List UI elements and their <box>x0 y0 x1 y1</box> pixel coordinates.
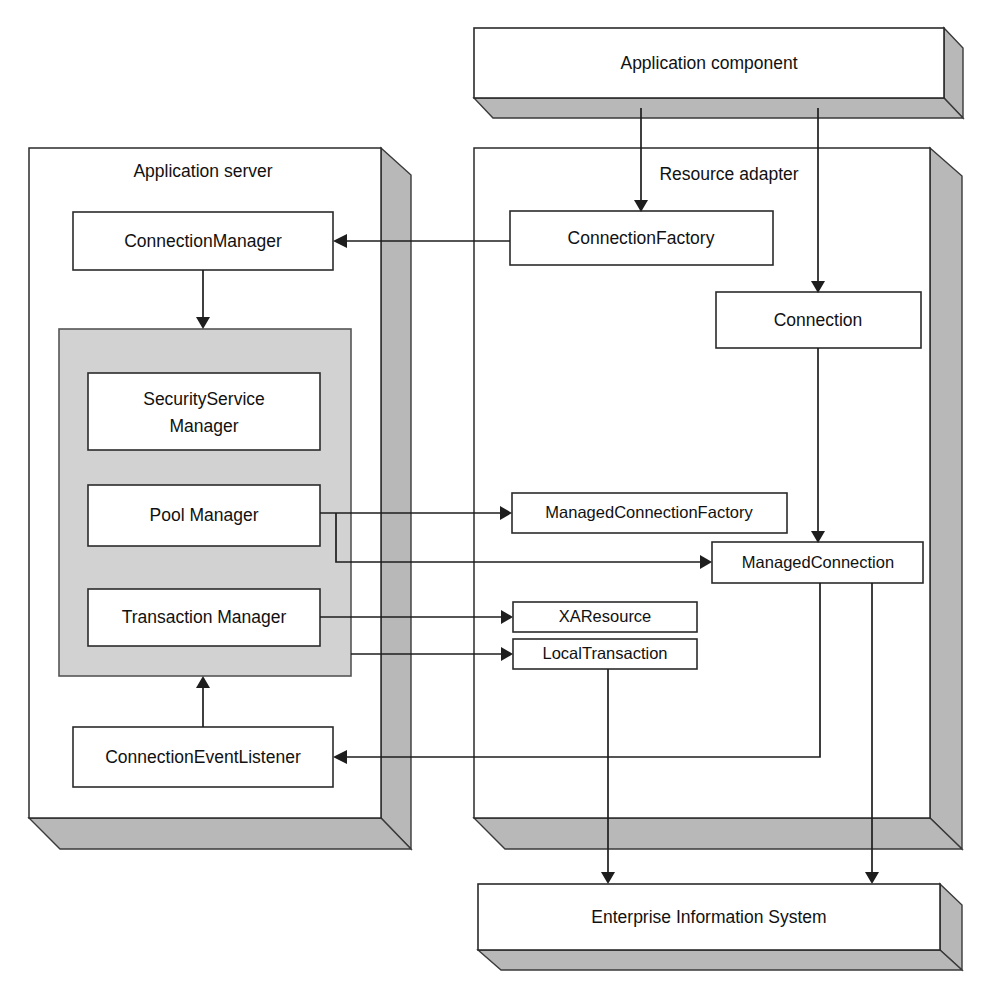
connection-event-listener-box[interactable]: ConnectionEventListener <box>73 727 333 787</box>
connector-architecture-diagram: Application component Application server… <box>0 0 991 1006</box>
pool-manager-label: Pool Manager <box>150 505 259 525</box>
managed-connection-factory-label: ManagedConnectionFactory <box>545 503 753 521</box>
resource-adapter-bottom-face <box>474 818 962 849</box>
application-component-label: Application component <box>620 53 797 73</box>
managed-connection-label: ManagedConnection <box>742 553 894 571</box>
application-server-bottom-face <box>29 818 411 849</box>
connection-box[interactable]: Connection <box>716 292 921 348</box>
local-transaction-box[interactable]: LocalTransaction <box>513 639 697 669</box>
connection-manager-box[interactable]: ConnectionManager <box>73 212 333 270</box>
pool-manager-box[interactable]: Pool Manager <box>88 485 320 546</box>
connection-factory-box[interactable]: ConnectionFactory <box>510 211 773 265</box>
managed-connection-box[interactable]: ManagedConnection <box>712 542 923 583</box>
xa-resource-label: XAResource <box>559 607 652 625</box>
transaction-manager-label: Transaction Manager <box>122 607 287 627</box>
resource-adapter-right-face <box>930 148 962 849</box>
connection-event-listener-label: ConnectionEventListener <box>105 747 301 767</box>
security-service-manager-label-line1: SecurityService <box>143 389 265 409</box>
application-server-label: Application server <box>133 161 272 181</box>
security-service-manager-label-line2: Manager <box>169 416 238 436</box>
managed-connection-factory-box[interactable]: ManagedConnectionFactory <box>512 493 787 533</box>
local-transaction-label: LocalTransaction <box>542 644 667 662</box>
xa-resource-box[interactable]: XAResource <box>513 602 697 632</box>
application-server-right-face <box>381 148 411 849</box>
eis-bottom-face <box>478 950 962 970</box>
eis-label: Enterprise Information System <box>591 907 826 927</box>
connection-factory-label: ConnectionFactory <box>568 228 715 248</box>
resource-adapter-label: Resource adapter <box>659 164 798 184</box>
security-service-manager-box[interactable]: SecurityService Manager <box>88 373 320 450</box>
application-component-bottom-face <box>474 98 963 118</box>
diagram-canvas: Application component Application server… <box>0 0 991 1006</box>
transaction-manager-box[interactable]: Transaction Manager <box>88 589 320 646</box>
connection-label: Connection <box>774 310 863 330</box>
security-service-manager-rect[interactable] <box>88 373 320 450</box>
connection-manager-label: ConnectionManager <box>124 231 282 251</box>
application-component-slab: Application component <box>474 28 963 118</box>
enterprise-information-system-slab: Enterprise Information System <box>478 884 962 970</box>
